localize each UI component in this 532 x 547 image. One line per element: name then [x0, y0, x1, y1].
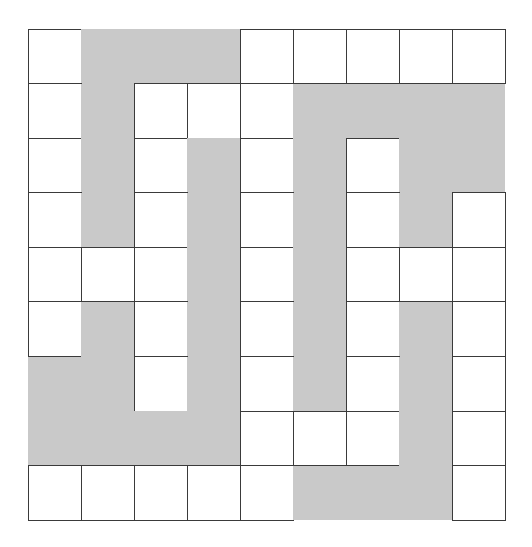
path-cell	[452, 84, 505, 139]
grid-cell	[293, 411, 347, 467]
path-cell	[187, 302, 240, 357]
grid-cell	[452, 411, 506, 467]
grid-cell	[134, 465, 188, 521]
path-cell	[28, 357, 81, 412]
grid-cell	[28, 247, 82, 303]
path-cell	[293, 138, 346, 193]
grid-cell	[346, 411, 400, 467]
grid-cell	[240, 247, 294, 303]
path-cell	[293, 302, 346, 357]
path-cell	[134, 411, 187, 466]
grid-cell	[346, 301, 400, 357]
path-cell	[399, 84, 452, 139]
grid-cell	[452, 247, 506, 303]
grid-cell	[28, 29, 82, 85]
grid-cell	[346, 29, 400, 85]
grid-cell	[346, 247, 400, 303]
grid-cell	[452, 465, 506, 521]
puzzle-grid	[28, 29, 505, 520]
path-cell	[187, 357, 240, 412]
path-cell	[399, 411, 452, 466]
grid-cell	[134, 356, 188, 412]
grid-cell	[81, 247, 135, 303]
path-cell	[346, 466, 399, 521]
grid-cell	[28, 138, 82, 194]
path-cell	[81, 29, 134, 84]
path-cell	[399, 302, 452, 357]
path-cell	[28, 411, 81, 466]
path-cell	[399, 357, 452, 412]
path-cell	[293, 247, 346, 302]
path-cell	[81, 411, 134, 466]
path-cell	[187, 193, 240, 248]
grid-cell	[81, 465, 135, 521]
grid-cell	[399, 247, 453, 303]
grid-cell	[240, 356, 294, 412]
grid-cell	[452, 301, 506, 357]
grid-cell	[240, 465, 294, 521]
path-cell	[134, 29, 187, 84]
grid-cell	[240, 301, 294, 357]
grid-cell	[28, 192, 82, 248]
grid-cell	[240, 29, 294, 85]
grid-cell	[134, 192, 188, 248]
grid-cell	[28, 301, 82, 357]
path-cell	[187, 138, 240, 193]
path-cell	[81, 193, 134, 248]
path-cell	[293, 84, 346, 139]
path-cell	[81, 302, 134, 357]
path-cell	[187, 247, 240, 302]
grid-cell	[346, 192, 400, 248]
grid-cell	[452, 356, 506, 412]
grid-cell	[240, 192, 294, 248]
path-cell	[452, 138, 505, 193]
path-cell	[399, 138, 452, 193]
grid-cell	[134, 83, 188, 139]
path-cell	[187, 29, 240, 84]
path-cell	[293, 357, 346, 412]
grid-cell	[28, 465, 82, 521]
grid-cell	[240, 83, 294, 139]
grid-cell	[187, 465, 241, 521]
path-cell	[81, 138, 134, 193]
grid-cell	[240, 411, 294, 467]
grid-cell	[399, 29, 453, 85]
grid-cell	[187, 83, 241, 139]
grid-cell	[346, 356, 400, 412]
path-cell	[293, 193, 346, 248]
grid-cell	[28, 83, 82, 139]
path-cell	[81, 84, 134, 139]
grid-cell	[134, 247, 188, 303]
grid-cell	[293, 29, 347, 85]
grid-cell	[134, 138, 188, 194]
path-cell	[81, 357, 134, 412]
grid-cell	[346, 138, 400, 194]
path-cell	[187, 411, 240, 466]
path-cell	[293, 466, 346, 521]
path-cell	[399, 193, 452, 248]
path-cell	[346, 84, 399, 139]
grid-cell	[452, 29, 506, 85]
grid-cell	[452, 192, 506, 248]
grid-cell	[134, 301, 188, 357]
grid-cell	[240, 138, 294, 194]
path-cell	[399, 466, 452, 521]
